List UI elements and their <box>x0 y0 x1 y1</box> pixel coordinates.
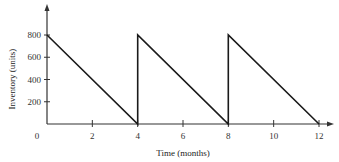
axes <box>45 4 335 127</box>
x-tick-label: 6 <box>181 131 186 141</box>
inventory-sawtooth-chart: 200400600800 24681012 0 Time (months) In… <box>0 0 339 162</box>
y-tick-label: 600 <box>28 52 42 62</box>
inventory-line <box>47 35 319 124</box>
x-tick-label: 4 <box>135 131 140 141</box>
x-tick-label: 12 <box>315 131 324 141</box>
x-axis-arrow-icon <box>327 122 334 127</box>
x-axis-label: Time (months) <box>156 148 209 158</box>
y-tick-label: 800 <box>28 30 42 40</box>
y-tick-label: 200 <box>28 97 42 107</box>
y-axis-label: Inventory (units) <box>7 49 17 110</box>
y-axis-arrow-icon <box>45 4 50 11</box>
x-ticks: 24681012 <box>90 120 323 141</box>
x-tick-label: 8 <box>226 131 231 141</box>
x-tick-label: 2 <box>90 131 95 141</box>
y-tick-label: 400 <box>28 75 42 85</box>
x-tick-label: 10 <box>269 131 279 141</box>
origin-label: 0 <box>35 131 40 141</box>
